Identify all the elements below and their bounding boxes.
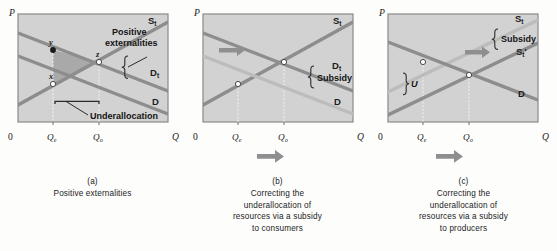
tick-label-qe: Qe	[47, 132, 57, 143]
panel-a-caption: (a) Positive externalities	[0, 176, 185, 200]
panel-b-caption-line-2: underallocation of	[185, 200, 370, 211]
panel-c: St St' D Subsidy U P Q 0 Qe Qo (c) Corre…	[370, 0, 557, 251]
axis-label-quantity: Q	[357, 131, 364, 142]
curve-label-d: D	[518, 88, 525, 99]
panel-a-caption-label: (a)	[0, 176, 185, 187]
panel-b: St Dt D Subsidy P Q 0 Qe Qo (b) Correcti…	[185, 0, 370, 251]
annotation-underallocation: Underallocation	[90, 111, 158, 121]
panel-b-svg: St Dt D Subsidy P Q 0 Qe Qo	[185, 0, 370, 170]
curve-label-st-prime: St'	[516, 46, 527, 58]
panel-b-caption-label: (b)	[185, 176, 370, 187]
panel-b-caption: (b) Correcting the underallocation of re…	[185, 176, 370, 234]
panel-b-below-arrow	[257, 150, 284, 163]
panel-c-caption: (c) Correcting the underallocation of re…	[370, 176, 557, 234]
panel-c-svg: St St' D Subsidy U P Q 0 Qe Qo	[370, 0, 557, 170]
axis-label-price: P	[8, 7, 15, 18]
panel-a: St Dt D x y z Positive externalities Und…	[0, 0, 185, 251]
axis-label-quantity: Q	[172, 131, 179, 142]
axis-label-quantity: Q	[542, 131, 549, 142]
panel-b-caption-line-4: to consumers	[185, 223, 370, 234]
panel-c-caption-label: (c)	[370, 176, 557, 187]
panel-c-caption-line-1: Correcting the	[370, 188, 557, 199]
panel-a-svg: St Dt D x y z Positive externalities Und…	[0, 0, 185, 150]
equilibrium-point-old	[420, 59, 425, 64]
axis-label-price: P	[378, 7, 385, 18]
axis-label-origin: 0	[378, 131, 383, 142]
economics-figure: St Dt D x y z Positive externalities Und…	[0, 0, 557, 251]
point-label-y: y	[48, 38, 53, 47]
panel-c-plot: St St' D Subsidy U P Q 0 Qe Qo	[370, 0, 555, 150]
axis-label-price: P	[193, 7, 200, 18]
point-z	[96, 59, 101, 64]
annotation-u: U	[411, 79, 418, 89]
tick-label-qo: Qo	[278, 132, 288, 143]
annotation-subsidy: Subsidy	[317, 73, 352, 83]
tick-label-qo: Qo	[463, 132, 473, 143]
panel-b-caption-line-1: Correcting the	[185, 188, 370, 199]
point-y	[50, 47, 56, 53]
equilibrium-point-old	[235, 81, 240, 86]
tick-label-qe: Qe	[232, 132, 242, 143]
tick-label-qe: Qe	[417, 132, 427, 143]
panel-c-caption-line-2: underallocation of	[370, 200, 557, 211]
annotation-positive-externalities-line1: Positive	[112, 27, 147, 37]
equilibrium-point-new	[466, 72, 471, 77]
equilibrium-point-new	[281, 59, 286, 64]
panel-b-plot: St Dt D Subsidy P Q 0 Qe Qo	[185, 0, 370, 150]
point-label-z: z	[95, 50, 100, 59]
panel-c-caption-line-3: resources via a subsidy	[370, 211, 557, 222]
annotation-positive-externalities-line2: externalities	[105, 38, 158, 48]
panel-c-below-arrow	[436, 150, 463, 163]
curve-label-d: D	[152, 96, 159, 107]
panel-b-caption-line-3: resources via a subsidy	[185, 211, 370, 222]
axis-label-origin: 0	[8, 131, 13, 142]
annotation-subsidy: Subsidy	[501, 34, 536, 44]
curve-label-d: D	[334, 96, 341, 107]
axis-label-origin: 0	[193, 131, 198, 142]
panel-a-plot: St Dt D x y z Positive externalities Und…	[0, 0, 185, 150]
point-x	[50, 81, 55, 86]
point-label-x: x	[48, 72, 53, 81]
panel-c-caption-line-4: to producers	[370, 223, 557, 234]
tick-label-qo: Qo	[93, 132, 103, 143]
panel-a-caption-text: Positive externalities	[0, 188, 185, 199]
